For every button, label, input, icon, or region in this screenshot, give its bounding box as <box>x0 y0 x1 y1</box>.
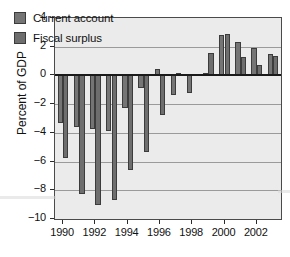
bar <box>128 75 133 170</box>
legend-label: Fiscal surplus <box>33 32 102 44</box>
legend-item: Current account <box>14 9 113 26</box>
x-tick-mark <box>191 220 192 224</box>
x-tick-label: 2002 <box>236 226 276 238</box>
chart-figure: Percent of GDP 420−2−4−6−8−10 1990199219… <box>0 0 290 257</box>
x-tick-mark <box>94 220 95 224</box>
x-tick-mark <box>224 220 225 224</box>
x-tick-mark <box>62 220 63 224</box>
x-tick-mark <box>256 220 257 224</box>
bar <box>95 75 100 204</box>
legend-swatch <box>14 32 26 44</box>
y-tick-label: −2 <box>2 97 46 107</box>
x-tick-mark <box>159 220 160 224</box>
legend-item: Fiscal surplus <box>14 29 113 46</box>
bar <box>112 75 117 199</box>
bar <box>241 57 246 76</box>
y-tick-label: −10 <box>2 212 46 222</box>
bar <box>225 34 230 76</box>
bar <box>144 75 149 151</box>
bar <box>160 75 165 114</box>
y-tick-label: −4 <box>2 126 46 136</box>
y-tick-label: 0 <box>2 68 46 78</box>
bar <box>187 75 192 92</box>
zero-line <box>55 74 281 76</box>
legend-label: Current account <box>33 12 113 24</box>
y-tick-label: −6 <box>2 155 46 165</box>
y-tick-label: −8 <box>2 183 46 193</box>
legend-swatch <box>14 12 26 24</box>
bar <box>273 56 278 75</box>
bar <box>79 75 84 193</box>
bar <box>208 53 213 75</box>
chart-legend: Current accountFiscal surplus <box>14 9 113 49</box>
bar <box>171 75 176 94</box>
bar <box>63 75 68 158</box>
scan-artifact-left <box>0 196 56 199</box>
x-tick-mark <box>127 220 128 224</box>
